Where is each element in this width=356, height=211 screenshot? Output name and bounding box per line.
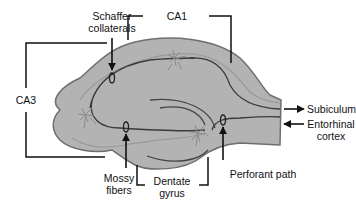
dentate-line2: gyrus (146, 187, 198, 199)
schaffer-line1: Schaffer (78, 10, 146, 22)
mossy-line2: fibers (102, 184, 136, 196)
subiculum-label: Subiculum (307, 103, 356, 115)
dentate-line1: Dentate (146, 175, 198, 187)
schaffer-line2: collaterals (78, 22, 146, 34)
ca1-label: CA1 (145, 10, 209, 22)
hippocampus-diagram: Schaffer collaterals CA1 CA3 Mossy fiber… (0, 0, 356, 211)
hippocampus-tissue (53, 38, 281, 169)
ca3-label: CA3 (12, 94, 40, 106)
dentate-label: Dentate gyrus (146, 175, 198, 199)
dentate-bracket-right (199, 157, 208, 185)
mossy-label: Mossy fibers (102, 172, 136, 196)
entorhinal-line2: cortex (303, 130, 356, 142)
mossy-line1: Mossy (102, 172, 136, 184)
entorhinal-label: Entorhinal cortex (303, 118, 356, 142)
schaffer-label: Schaffer collaterals (78, 10, 146, 34)
entorhinal-line1: Entorhinal (303, 118, 356, 130)
perforant-label: Perforant path (218, 168, 308, 180)
